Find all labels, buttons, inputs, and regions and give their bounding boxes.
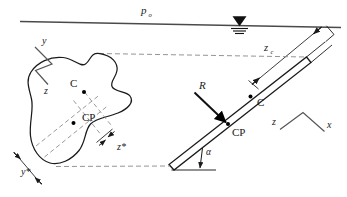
- plan-cp-dot: [72, 121, 76, 125]
- resultant-force-label: R: [198, 79, 206, 91]
- plate-centroid-dot: [249, 95, 253, 99]
- hydrostatic-force-diagram: p o z c C CP R α: [0, 0, 347, 197]
- y-offset-arrow-a: [14, 153, 21, 160]
- zc-extension-tick: [249, 81, 259, 90]
- angle-label: α: [206, 147, 212, 157]
- zc-arrow-upper: [314, 27, 322, 34]
- z-x-axis-marker: z x: [271, 113, 332, 132]
- zc-dimension-line: [252, 27, 322, 85]
- plan-centroid-dot: [82, 90, 86, 94]
- y-offset-arrow-b: [35, 178, 42, 185]
- axis-z-left-label: z: [43, 85, 48, 96]
- plate-plane-trace-upper: [307, 42, 326, 57]
- ambient-pressure-subscript: o: [149, 11, 153, 18]
- zc-arrow-lower: [252, 78, 260, 85]
- plate-cp-label: CP: [232, 126, 245, 138]
- projection-line-bottom: [56, 166, 170, 167]
- y-offset-label: y*: [20, 166, 30, 177]
- z-offset-label: z*: [116, 141, 126, 152]
- projection-line-top: [99, 54, 306, 58]
- axis-z-right-label: z: [271, 116, 276, 127]
- centroid-depth-subscript: c: [271, 48, 274, 55]
- free-surface-line: [20, 22, 341, 28]
- plate-plane-trace-lower: [311, 45, 332, 63]
- ambient-pressure-label: p: [140, 4, 147, 16]
- centroid-depth-label: z: [263, 42, 268, 53]
- plan-centroid-label: C: [70, 77, 77, 89]
- z-offset-arrow-a: [99, 140, 106, 146]
- right-angle-marker: [326, 26, 335, 42]
- axis-y-label: y: [41, 35, 47, 46]
- inclined-submerged-plate: [169, 57, 311, 170]
- diagram-canvas: p o z c C CP R α: [0, 0, 347, 197]
- plate-cp-dot: [226, 122, 230, 126]
- plate-centroid-label: C: [257, 96, 264, 108]
- angle-arrow: [200, 148, 203, 168]
- resultant-force-arrow: [195, 93, 227, 123]
- plan-cp-label: CP: [82, 111, 95, 123]
- axis-x-label: x: [326, 119, 332, 130]
